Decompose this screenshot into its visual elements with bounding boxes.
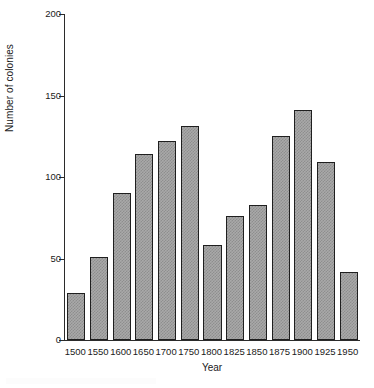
bar-1950 [340,272,358,340]
x-axis-tick-label: 1850 [246,345,269,358]
page-scan-artifact [6,378,156,384]
x-axis-tick-label: 1800 [200,345,223,358]
y-axis-tick-label: 100 [45,170,61,183]
x-axis-tick-label: 1875 [268,345,291,358]
x-axis-tick-label: 1500 [64,345,87,358]
x-axis-tick-label: 1650 [132,345,155,358]
bar-1700 [158,141,176,340]
bar-1750 [181,126,199,340]
y-axis-title: Number of colonies [4,28,22,148]
x-axis-title: Year [64,362,360,373]
x-axis-tick-label: 1750 [177,345,200,358]
x-axis-tick-labels: 1500155016001650170017501800182518501875… [64,345,360,359]
bars-layer [65,14,360,341]
x-axis-tick-label: 1550 [87,345,110,358]
y-axis-tick-label: 200 [45,7,61,20]
x-axis-tick-label: 1900 [291,345,314,358]
bar-1900 [294,110,312,340]
bar-1875 [272,136,290,340]
x-axis-tick-label: 1700 [155,345,178,358]
x-axis-tick-label: 1950 [336,345,359,358]
bar-1825 [226,216,244,340]
bar-1800 [203,245,221,340]
x-axis-tick-label: 1925 [314,345,337,358]
x-axis-tick-label: 1600 [109,345,132,358]
y-axis-tick-label: 50 [50,252,61,265]
y-axis-tick-label: 150 [45,89,61,102]
bar-1550 [90,257,108,340]
bar-1650 [135,154,153,340]
bar-chart-figure: Number of colonies 050100150200 15001550… [0,0,374,388]
plot-area: 050100150200 [64,14,360,341]
bar-1500 [67,293,85,340]
bar-1850 [249,205,267,340]
y-axis-tick-label: 0 [56,333,61,346]
bar-1600 [113,193,131,340]
x-axis-tick-label: 1825 [223,345,246,358]
bar-1925 [317,162,335,340]
